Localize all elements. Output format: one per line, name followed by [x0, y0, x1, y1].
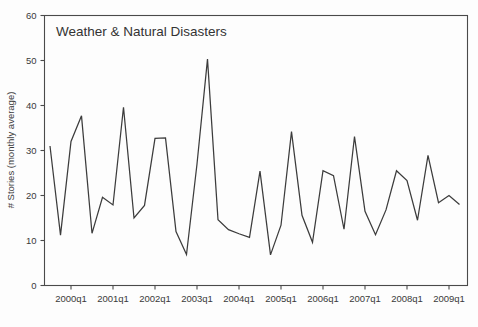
x-tick-label: 2007q1 — [349, 293, 381, 304]
y-tick-label: 20 — [26, 190, 37, 201]
x-tick-label: 2001q1 — [97, 293, 129, 304]
plot-title: Weather & Natural Disasters — [56, 24, 227, 39]
y-axis: 0102030405060 — [26, 10, 45, 291]
chart-figure: 0102030405060 2000q12001q12002q12003q120… — [0, 0, 478, 327]
line-chart: 0102030405060 2000q12001q12002q12003q120… — [0, 0, 478, 327]
x-tick-label: 2005q1 — [265, 293, 297, 304]
y-tick-label: 40 — [26, 100, 37, 111]
y-tick-label: 0 — [31, 280, 36, 291]
y-tick-label: 50 — [26, 55, 37, 66]
x-tick-label: 2004q1 — [223, 293, 255, 304]
y-tick-label: 60 — [26, 10, 37, 21]
y-tick-label: 30 — [26, 145, 37, 156]
x-axis: 2000q12001q12002q12003q12004q12005q12006… — [55, 286, 465, 304]
x-tick-label: 2002q1 — [139, 293, 171, 304]
x-tick-label: 2006q1 — [307, 293, 339, 304]
x-tick-label: 2000q1 — [55, 293, 87, 304]
y-tick-label: 10 — [26, 235, 37, 246]
y-axis-title: # Stories (monthly average) — [5, 92, 16, 209]
series-line-weather-natural-disasters — [50, 59, 460, 255]
plot-frame — [45, 16, 468, 286]
x-tick-label: 2009q1 — [433, 293, 465, 304]
x-tick-label: 2003q1 — [181, 293, 213, 304]
x-tick-label: 2008q1 — [391, 293, 423, 304]
